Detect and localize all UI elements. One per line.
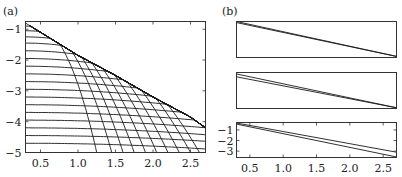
y-tick-label: −2 [5, 54, 21, 67]
x-tick-label: 1.5 [308, 162, 326, 175]
panel-b-subplot-top [237, 22, 397, 58]
descending-curve [29, 25, 97, 152]
y-tick-label: −3 [217, 145, 233, 158]
x-tick-label: 1.0 [274, 162, 292, 175]
horizontal-curve [26, 143, 221, 150]
panel-b-subplot-middle [237, 73, 397, 109]
series-line [237, 22, 397, 57]
horizontal-curve [26, 105, 221, 128]
y-tick-label: −1 [5, 23, 21, 36]
x-tick-label: 1.0 [69, 157, 87, 170]
x-tick-label: 2.0 [341, 162, 359, 175]
horizontal-curve [26, 128, 221, 136]
x-tick-label: 2.0 [144, 157, 162, 170]
x-tick-label: 0.5 [241, 162, 259, 175]
panel-a-curves [26, 23, 221, 153]
x-tick-label: 1.5 [107, 157, 125, 170]
series-line [237, 77, 397, 108]
y-tick-label: −5 [5, 147, 21, 160]
x-tick-label: 2.5 [182, 157, 200, 170]
x-tick-label: 2.5 [374, 162, 392, 175]
figure: (a) 0.51.01.52.02.5−1−2−3−4−5 (b) 0.51.0… [0, 0, 402, 177]
panel-a-label: (a) [3, 5, 18, 18]
descending-curve [34, 28, 191, 152]
series-line [237, 124, 397, 157]
x-tick-label: 0.5 [32, 157, 50, 170]
panel-b-plot: 0.51.01.52.02.5−1−2−3 [217, 22, 396, 175]
y-tick-label: −4 [5, 116, 21, 129]
series-line [237, 123, 397, 152]
panel-a-plot: 0.51.01.52.02.5−1−2−3−4−5 [5, 22, 220, 170]
y-tick-label: −3 [5, 85, 21, 98]
panel-b-label: (b) [222, 5, 238, 18]
panel-b-subplot-bottom: 0.51.01.52.02.5−1−2−3 [217, 123, 396, 175]
